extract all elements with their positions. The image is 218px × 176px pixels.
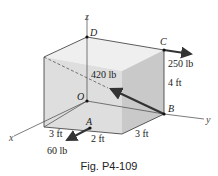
point-c-label: C: [160, 37, 167, 47]
dim-3ft-front: 3 ft: [49, 129, 63, 139]
point-o-label: O: [77, 92, 84, 102]
dim-3ft-bottom: 3 ft: [135, 129, 149, 139]
force-label-250: 250 lb: [168, 59, 193, 69]
figure-caption: Fig. P4-109: [0, 160, 218, 172]
force-arrow-250: [164, 50, 191, 54]
z-axis-label: z: [85, 12, 89, 22]
dim-2ft: 2 ft: [91, 134, 105, 144]
point-b-label: B: [168, 104, 174, 114]
force-label-60: 60 lb: [47, 146, 67, 156]
force-label-420: 420 lb: [91, 70, 116, 80]
y-axis-label: y: [206, 115, 210, 125]
x-axis-label: x: [9, 133, 13, 143]
dim-4ft: 4 ft: [168, 78, 182, 88]
box-diagram: [0, 0, 218, 176]
figure-p4-109: z x y D C B O A 420 lb 250 lb 60 lb 3 ft…: [0, 0, 218, 176]
point-d-label: D: [90, 28, 97, 38]
point-a-label: A: [86, 117, 92, 127]
